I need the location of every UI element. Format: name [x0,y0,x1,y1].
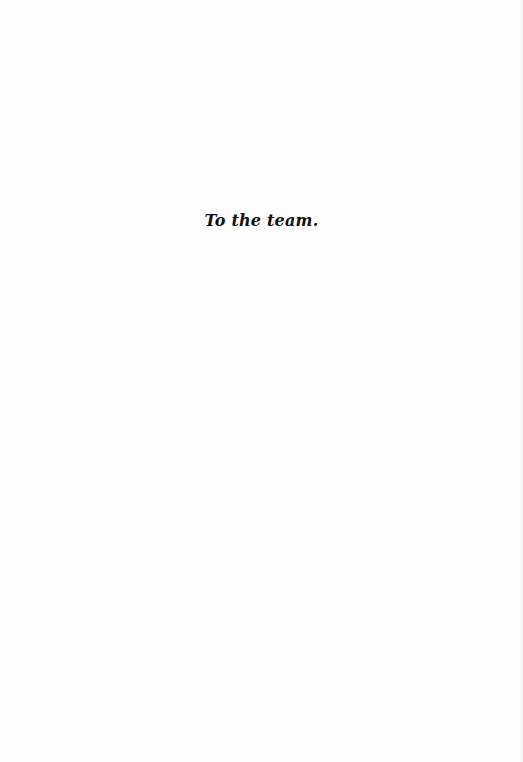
dedication-text: To the team. [0,211,523,230]
book-page: To the team. [0,0,523,762]
